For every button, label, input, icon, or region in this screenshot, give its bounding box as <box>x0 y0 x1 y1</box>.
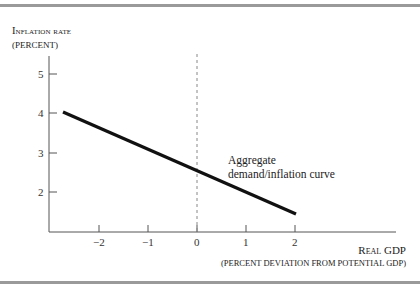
x-axis-title: Real GDP <box>221 244 406 257</box>
y-tick-label: 2 <box>38 186 44 198</box>
x-tick-label: −1 <box>142 236 154 248</box>
bottom-rule <box>0 281 420 284</box>
x-axis-label: Real GDP (PERCENT DEVIATION FROM POTENTI… <box>221 244 406 270</box>
curve-annotation-line1: Aggregate <box>228 154 276 167</box>
y-tick-label: 3 <box>38 147 44 159</box>
y-ticks: 2 3 4 5 <box>38 68 57 198</box>
x-axis-unit: (PERCENT DEVIATION FROM POTENTIAL GDP) <box>221 257 406 270</box>
x-tick-label: 0 <box>194 236 200 248</box>
curve-annotation-line2: demand/inflation curve <box>228 168 335 180</box>
x-tick-label: −2 <box>93 236 105 248</box>
y-tick-label: 4 <box>38 107 44 119</box>
y-tick-label: 5 <box>38 68 44 80</box>
